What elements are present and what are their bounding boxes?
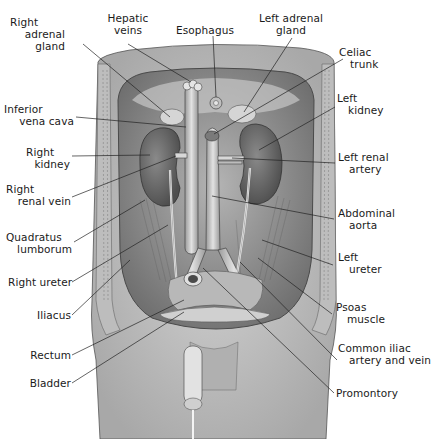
label-rectum: Rectum [20,349,71,361]
label-line: Abdominal [338,207,395,219]
label-line: adrenal [10,28,65,40]
label-psoas-muscle: Psoas muscle [336,301,385,325]
label-line: ureter [338,263,382,275]
label-line: Celiac [339,46,378,58]
label-common-iliac: Common iliac artery and vein [338,342,431,366]
label-line: Left adrenal [256,12,326,24]
label-line: Iliacus [20,309,71,321]
label-line: kidney [337,104,384,116]
pelvis [160,271,270,322]
label-line: lumborum [6,243,72,255]
label-abdominal-aorta: Abdominal aorta [338,207,395,231]
inferior-vena-cava-shape [185,86,198,254]
label-line: vena cava [4,115,74,127]
label-hepatic-veins: Hepatic veins [98,12,158,36]
label-left-kidney: Left kidney [337,92,384,116]
label-right-renal-vein: Right renal vein [6,183,71,207]
abdominal-aorta-shape [206,128,220,250]
label-line: Psoas [336,301,385,313]
label-line: Common iliac [338,342,431,354]
label-line: Left renal [338,151,389,163]
label-line: Left [337,92,384,104]
label-line: Rectum [20,349,71,361]
left-adrenal-gland-shape [228,105,256,123]
label-line: Right [20,146,70,158]
label-line: gland [10,40,65,52]
label-line: Inferior [4,103,74,115]
label-line: aorta [338,219,395,231]
label-esophagus: Esophagus [176,24,234,36]
label-line: muscle [336,313,385,325]
anatomy-diagram: Right adrenal gland Inferior vena cava R… [0,0,433,439]
label-line: Bladder [14,377,71,389]
label-line: kidney [20,158,70,170]
label-line: Hepatic [98,12,158,24]
label-line: veins [98,24,158,36]
label-left-renal-artery: Left renal artery [338,151,389,175]
label-line: trunk [339,58,378,70]
label-iliacus: Iliacus [20,309,71,321]
label-line: Esophagus [176,24,234,36]
label-right-kidney: Right kidney [20,146,70,170]
label-quadratus-lumborum: Quadratus lumborum [6,231,72,255]
label-line: artery [338,163,389,175]
label-line: Left [338,251,382,263]
label-line: Quadratus [6,231,72,243]
label-inferior-vena-cava: Inferior vena cava [4,103,74,127]
label-promontory: Promontory [336,387,398,399]
label-left-adrenal-gland: Left adrenal gland [256,12,326,36]
label-left-ureter: Left ureter [338,251,382,275]
label-bladder: Bladder [14,377,71,389]
label-line: Right [10,16,65,28]
label-right-ureter: Right ureter [8,276,71,288]
label-line: renal vein [6,195,71,207]
label-line: Right ureter [8,276,71,288]
label-right-adrenal-gland: Right adrenal gland [10,16,65,52]
left-kidney-shape [240,124,282,204]
esophagus-shape [210,97,222,109]
label-line: Promontory [336,387,398,399]
label-line: artery and vein [338,354,431,366]
label-line: gland [256,24,326,36]
label-line: Right [6,183,71,195]
label-celiac-trunk: Celiac trunk [339,46,378,70]
